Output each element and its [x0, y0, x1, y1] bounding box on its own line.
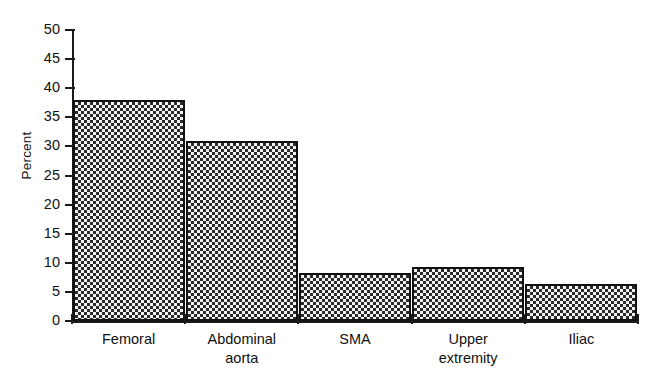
- y-axis-tick-label: 20: [22, 197, 60, 211]
- x-axis-tick: [184, 314, 186, 324]
- y-axis-tick: [65, 29, 75, 31]
- x-axis-tick: [297, 314, 299, 324]
- y-axis-tick-label: 0: [22, 313, 60, 327]
- y-axis-tick-label: 45: [22, 51, 60, 65]
- bar: [525, 284, 637, 321]
- x-axis-tick: [524, 314, 526, 324]
- x-axis-tick: [71, 314, 73, 324]
- y-axis-tick: [65, 58, 75, 60]
- x-axis-tick-label: SMA: [298, 330, 411, 349]
- x-axis-tick-label: Abdominal aorta: [185, 330, 298, 368]
- x-axis-tick-label: Femoral: [72, 330, 185, 349]
- bar: [73, 100, 185, 321]
- bar-chart-figure: Percent 50454035302520151050 FemoralAbdo…: [0, 0, 663, 390]
- y-axis-tick-label: 15: [22, 226, 60, 240]
- bar: [186, 141, 298, 321]
- y-axis-tick-label: 35: [22, 109, 60, 123]
- y-axis-tick-label: 40: [22, 80, 60, 94]
- x-axis-tick-label: Iliac: [525, 330, 638, 349]
- x-axis-tick: [637, 314, 639, 324]
- y-axis-tick: [65, 87, 75, 89]
- x-axis-tick: [411, 314, 413, 324]
- x-axis-line: [72, 321, 638, 323]
- y-axis-tick-label: 30: [22, 138, 60, 152]
- bar: [299, 273, 411, 321]
- y-axis-tick-label: 5: [22, 284, 60, 298]
- bar: [412, 267, 524, 321]
- x-axis-tick-label: Upper extremity: [412, 330, 525, 368]
- y-axis-tick-label: 50: [22, 22, 60, 36]
- y-axis-tick-label: 25: [22, 168, 60, 182]
- y-axis-tick-label: 10: [22, 255, 60, 269]
